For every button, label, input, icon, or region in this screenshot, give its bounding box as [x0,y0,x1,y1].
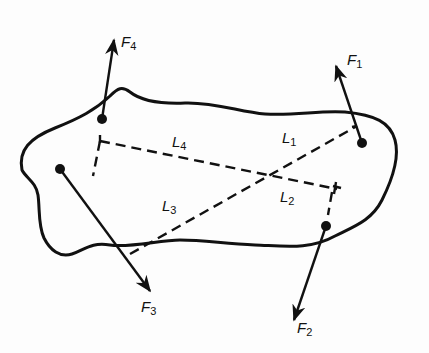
label-f2: F2 [297,320,312,338]
label-l3: L3 [162,198,176,216]
moment-arm-l4 [100,141,337,189]
label-f3: F3 [141,299,156,317]
l2-extension [328,192,332,215]
force-f2 [294,221,331,320]
label-f1: F1 [347,52,362,70]
label-l1: L1 [282,130,296,148]
free-body-diagram: F4 F1 F3 F2 L1 L2 L3 L4 [0,0,429,353]
label-l2: L2 [280,189,294,207]
force-f4 [97,40,114,124]
label-f4: F4 [121,34,136,52]
l4-extension [93,141,100,176]
label-l4: L4 [172,134,186,152]
rigid-body-outline [21,89,396,256]
diagram-drawing [0,0,429,353]
force-f3 [55,164,150,291]
